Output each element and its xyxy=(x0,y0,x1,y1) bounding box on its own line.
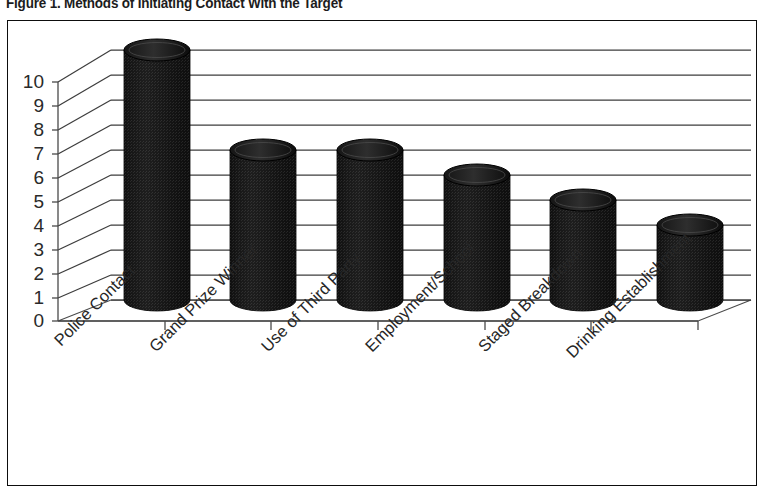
page-title: Figure 1. Methods of Initiating Contact … xyxy=(6,0,342,11)
y-tick-label: 4 xyxy=(10,216,44,235)
y-tick-label: 3 xyxy=(10,240,44,259)
chart-plot-area: 10 9 8 7 6 5 4 3 2 1 0 Police Contact Gr… xyxy=(8,21,758,487)
y-tick-label: 8 xyxy=(10,120,44,139)
bar-cylinder xyxy=(337,139,403,311)
bar-cylinder xyxy=(230,139,296,311)
bar-chart-svg xyxy=(8,21,758,487)
y-axis xyxy=(52,82,58,321)
bar-cylinder xyxy=(444,164,510,311)
y-tick-label: 10 xyxy=(10,72,44,91)
y-tick-label: 2 xyxy=(10,264,44,283)
y-tick-label: 6 xyxy=(10,168,44,187)
y-tick-label: 0 xyxy=(10,311,44,330)
y-tick-label: 7 xyxy=(10,144,44,163)
y-tick-label: 1 xyxy=(10,288,44,307)
y-tick-label: 5 xyxy=(10,192,44,211)
figure-frame: 10 9 8 7 6 5 4 3 2 1 0 Police Contact Gr… xyxy=(7,20,757,486)
bar-cylinder xyxy=(550,189,616,311)
y-tick-label: 9 xyxy=(10,96,44,115)
